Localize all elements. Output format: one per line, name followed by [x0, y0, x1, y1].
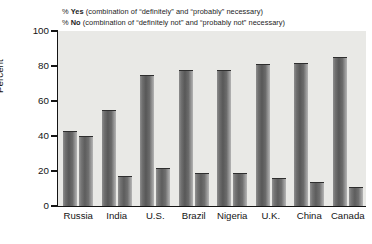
bar-group	[217, 31, 247, 206]
x-axis-label: Russia	[64, 210, 93, 221]
bar-groups	[58, 31, 366, 206]
bar-yes	[102, 110, 116, 206]
y-axis-tick-mark	[51, 135, 57, 136]
chart-screenshot: % Yes (combination of “definitely” and “…	[0, 0, 372, 244]
x-axis-label: U.K.	[261, 210, 280, 221]
x-axis-label: India	[106, 210, 127, 221]
legend-no-key: No	[71, 18, 81, 27]
legend-yes-key: Yes	[71, 7, 84, 16]
legend-yes-percent-sign: %	[62, 7, 71, 16]
x-axis-line	[57, 206, 366, 207]
y-axis-tick-label: 80	[38, 60, 49, 71]
bar-yes	[256, 64, 270, 206]
bar-group	[294, 31, 324, 206]
bar-no	[233, 173, 247, 206]
y-axis-title: Percent	[0, 59, 5, 93]
y-axis-tick-mark	[51, 65, 57, 66]
legend-yes-description: (combination of “definitely” and “probab…	[84, 7, 263, 16]
y-axis-tick-mark	[51, 30, 57, 31]
y-axis-tick-label: 60	[38, 95, 49, 106]
y-axis-tick-label: 100	[33, 25, 49, 36]
bar-yes	[179, 70, 193, 207]
bar-group	[63, 31, 93, 206]
bar-group	[333, 31, 363, 206]
bar-yes	[63, 131, 77, 206]
legend-no-description: (combination of “definitely not” and “pr…	[81, 18, 285, 27]
bar-yes	[217, 70, 231, 207]
legend-no-percent-sign: %	[62, 18, 71, 27]
legend-entry-yes: % Yes (combination of “definitely” and “…	[62, 7, 368, 18]
y-axis-tick-label: 20	[38, 165, 49, 176]
bar-group	[102, 31, 132, 206]
y-axis-tick-label: 0	[44, 200, 49, 211]
y-axis-tick-mark	[51, 170, 57, 171]
x-axis-label: Nigeria	[217, 210, 247, 221]
bar-no	[118, 176, 132, 206]
bar-group	[179, 31, 209, 206]
bar-no	[79, 136, 93, 206]
bar-no	[310, 182, 324, 207]
bar-no	[349, 187, 363, 206]
x-axis-label: Canada	[331, 210, 365, 221]
y-axis-tick-mark	[51, 205, 57, 206]
bar-yes	[333, 57, 347, 206]
legend-entry-no: % No (combination of “definitely not” an…	[62, 18, 368, 29]
bar-group	[256, 31, 286, 206]
bar-no	[272, 178, 286, 206]
y-axis-tick-label: 40	[38, 130, 49, 141]
bar-no	[156, 168, 170, 207]
x-axis-label: China	[297, 210, 322, 221]
chart-legend: % Yes (combination of “definitely” and “…	[62, 7, 368, 28]
bar-yes	[294, 63, 308, 207]
x-axis-label: Brazil	[182, 210, 206, 221]
y-axis-tick-mark	[51, 100, 57, 101]
x-axis-label: U.S.	[146, 210, 165, 221]
bar-no	[195, 173, 209, 206]
bar-group	[140, 31, 170, 206]
x-axis-labels: RussiaIndiaU.S.BrazilNigeriaU.K.ChinaCan…	[58, 210, 366, 226]
bar-yes	[140, 75, 154, 206]
